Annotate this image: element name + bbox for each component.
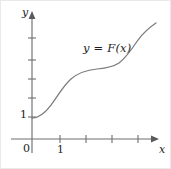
y-axis-tick-label-1: 1: [20, 109, 27, 120]
curve-equation-label: y = F(x): [83, 43, 131, 55]
y-axis-label: y: [22, 7, 28, 18]
graph-figure: y x 0 1 1 y = F(x): [0, 0, 171, 169]
x-axis-tick-label-1: 1: [57, 144, 64, 155]
x-axis-group: [11, 135, 159, 143]
x-axis-arrowhead: [151, 136, 159, 143]
y-axis-arrowhead: [29, 11, 36, 19]
y-axis-group: [28, 11, 36, 153]
origin-label: 0: [23, 143, 30, 154]
x-axis-label: x: [159, 144, 165, 155]
function-curve: [32, 23, 156, 118]
